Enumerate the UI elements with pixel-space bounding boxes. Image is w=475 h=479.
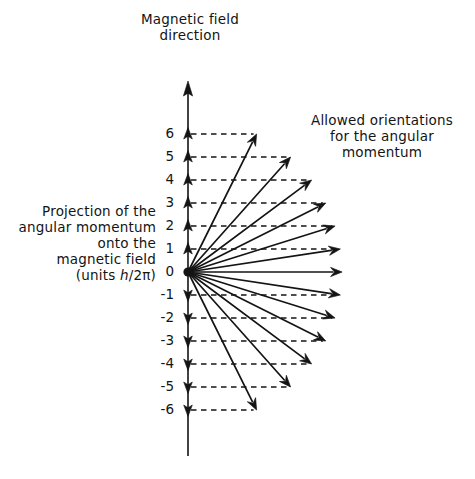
axis-tick-label: 2: [148, 217, 174, 233]
angular-momentum-vector: [188, 272, 252, 402]
projection-label-units: (units h/2π): [76, 267, 156, 283]
axis-tick-label: -2: [148, 309, 174, 325]
angular-momentum-vector: [188, 142, 252, 272]
magnetic-field-direction-label: Magnetic field direction: [95, 12, 285, 44]
axis-origin-node: [183, 267, 192, 276]
axis-tick-label: 6: [148, 125, 174, 141]
axis-tick-label: -6: [148, 401, 174, 417]
angular-momentum-vector: [188, 272, 304, 358]
angular-momentum-vectors: [188, 134, 342, 410]
axis-tick-label: 1: [148, 240, 174, 256]
projection-label-lines: Projection of the angular momentum onto …: [19, 203, 156, 267]
planck-constant-symbol: h: [120, 267, 129, 283]
axis-tick-label: -5: [148, 378, 174, 394]
allowed-orientations-label: Allowed orientations for the angular mom…: [296, 113, 468, 161]
angular-momentum-vector: [188, 272, 326, 315]
axis-tick-label: -1: [148, 286, 174, 302]
axis-tick-label: 4: [148, 171, 174, 187]
angular-momentum-vector: [188, 186, 304, 272]
axis-tick-label: 0: [148, 263, 174, 279]
axis-tick-label: -4: [148, 355, 174, 371]
axis-tick-label: 3: [148, 194, 174, 210]
figure-canvas: Magnetic field direction Allowed orienta…: [0, 0, 475, 479]
angular-momentum-vector: [188, 229, 326, 272]
axis-tick-label: 5: [148, 148, 174, 164]
units-prefix: (units: [76, 267, 120, 283]
axis-tick-label: -3: [148, 332, 174, 348]
projection-axis-label: Projection of the angular momentum onto …: [8, 204, 156, 284]
